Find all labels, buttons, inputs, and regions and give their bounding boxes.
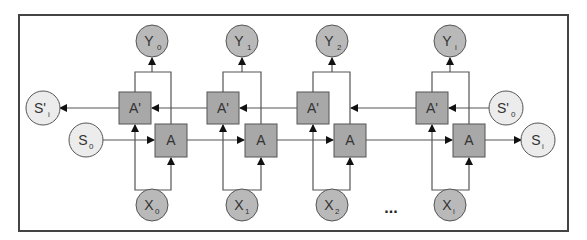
output-subscript: i (455, 43, 457, 52)
bidirectional-rnn-diagram: A' A' A' A' A A A A Y 0 Y 1 Y 2 Y i X 0 … (0, 0, 587, 240)
input-label: X (324, 197, 334, 213)
input-label: X (234, 197, 244, 213)
state-subscript: i (542, 142, 544, 151)
state-subscript: 0 (511, 110, 516, 119)
connections (60, 58, 521, 207)
ellipsis: ... (384, 199, 397, 216)
output-label: Y (442, 33, 452, 49)
state-subscript: i (48, 110, 50, 119)
backward-cell-label: A' (129, 100, 141, 116)
input-subscript: 2 (335, 207, 340, 216)
input-label: X (442, 197, 452, 213)
input-subscript: i (453, 207, 455, 216)
output-label: Y (324, 33, 334, 49)
backward-cell-label: A' (217, 100, 229, 116)
state-label: S' (34, 100, 46, 116)
input-label: X (144, 197, 154, 213)
input-subscript: 1 (245, 207, 250, 216)
forward-cell-label: A (256, 132, 266, 148)
state-label: S' (497, 100, 509, 116)
output-label: Y (234, 33, 244, 49)
backward-cell-label: A' (307, 100, 319, 116)
backward-cell-label: A' (426, 100, 438, 116)
forward-cell-label: A (345, 132, 355, 148)
output-subscript: 0 (157, 43, 162, 52)
output-subscript: 2 (337, 43, 342, 52)
state-subscript: 0 (89, 142, 94, 151)
forward-cell-label: A (166, 132, 176, 148)
output-subscript: 1 (247, 43, 252, 52)
input-subscript: 0 (155, 207, 160, 216)
forward-cell-label: A (464, 132, 474, 148)
state-label: S (531, 132, 540, 148)
output-label: Y (144, 33, 154, 49)
state-label: S (78, 132, 87, 148)
